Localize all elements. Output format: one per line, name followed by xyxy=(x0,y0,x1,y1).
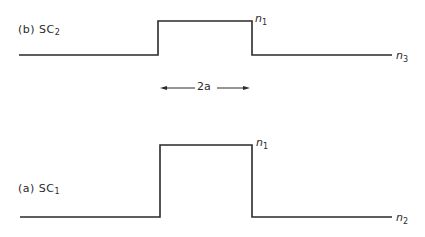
refractive-index-profiles xyxy=(0,0,425,237)
panel-a-core-index-label: n1 xyxy=(256,136,268,151)
panel-b-core-index-label: n1 xyxy=(255,12,267,27)
dimension-label: 2a xyxy=(195,80,213,93)
profile-a-line xyxy=(20,145,392,217)
panel-b-outer-index-label: n3 xyxy=(396,49,408,64)
panel-a-label: (a) SC1 xyxy=(18,182,60,196)
panel-b-label: (b) SC2 xyxy=(18,23,60,37)
panel-a-outer-index-label: n2 xyxy=(396,211,408,226)
arrowhead-right-icon xyxy=(243,86,250,90)
profile-b-line xyxy=(19,21,392,55)
arrowhead-left-icon xyxy=(160,86,167,90)
